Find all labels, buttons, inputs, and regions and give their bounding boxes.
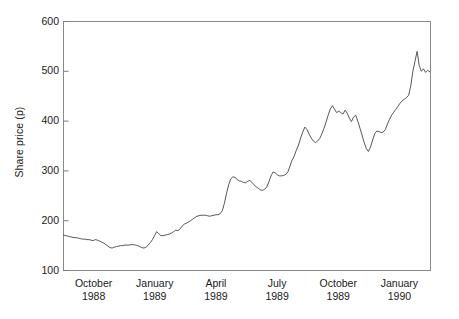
- x-axis-tick-month: October: [75, 277, 112, 290]
- x-axis-tick-label: January1989: [136, 277, 173, 302]
- plot-frame: [64, 22, 431, 271]
- x-axis-tick-month: July: [265, 277, 288, 290]
- x-axis-tick-year: 1990: [381, 290, 418, 303]
- price-series-line: [64, 51, 430, 248]
- x-axis-tick-month: January: [136, 277, 173, 290]
- x-axis-tick-label: April1989: [204, 277, 227, 302]
- x-axis-tick-label: October1988: [75, 277, 112, 302]
- chart-figure: Share price (p) 100200300400500600 Octob…: [0, 0, 459, 319]
- x-axis-tick-labels: October1988January1989April1989July1989O…: [63, 277, 431, 317]
- x-axis-tick-year: 1989: [320, 290, 357, 303]
- x-axis-tick-year: 1989: [136, 290, 173, 303]
- line-chart-plot: [0, 0, 459, 319]
- x-axis-tick-year: 1989: [204, 290, 227, 303]
- x-axis-tick-month: April: [204, 277, 227, 290]
- y-axis-ticks: [64, 22, 69, 271]
- x-axis-tick-month: January: [381, 277, 418, 290]
- x-axis-tick-label: July1989: [265, 277, 288, 302]
- x-axis-tick-label: January1990: [381, 277, 418, 302]
- x-axis-tick-month: October: [320, 277, 357, 290]
- x-axis-tick-year: 1988: [75, 290, 112, 303]
- x-axis-tick-year: 1989: [265, 290, 288, 303]
- x-axis-tick-label: October1989: [320, 277, 357, 302]
